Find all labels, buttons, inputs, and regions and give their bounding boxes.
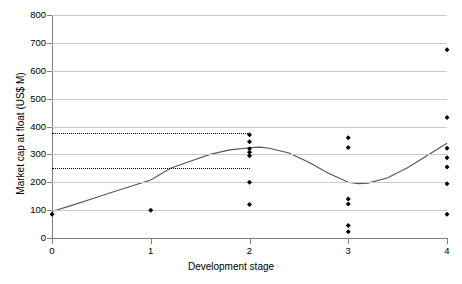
- y-axis-tick-label: 800: [12, 10, 46, 20]
- y-axis-tick-labels: 0100200300400500600700800: [10, 15, 46, 238]
- x-axis-tick-labels: 01234: [52, 246, 448, 258]
- y-axis-tick: [47, 154, 52, 155]
- y-axis-tick: [47, 99, 52, 100]
- x-axis-tick-label: 3: [333, 246, 363, 256]
- gridline: [52, 71, 447, 72]
- y-axis-tick: [47, 71, 52, 72]
- gridline: [52, 99, 447, 100]
- gridline: [52, 15, 447, 16]
- y-axis-tick-label: 600: [12, 66, 46, 76]
- lower-reference: [52, 168, 250, 169]
- y-axis-tick: [47, 43, 52, 44]
- y-axis-tick-label: 500: [12, 94, 46, 104]
- y-axis-tick-label: 700: [12, 38, 46, 48]
- y-axis-tick: [47, 15, 52, 16]
- upper-reference: [52, 133, 250, 134]
- y-axis-tick-label: 100: [12, 205, 46, 215]
- y-axis-tick-label: 0: [12, 233, 46, 243]
- gridline: [52, 43, 447, 44]
- x-axis-tick: [447, 239, 448, 244]
- y-axis-tick: [47, 127, 52, 128]
- scatter-chart: Market cap at float (US$ M) 010020030040…: [0, 0, 462, 284]
- x-axis-tick-label: 1: [136, 246, 166, 256]
- y-axis-tick: [47, 210, 52, 211]
- x-axis-tick-label: 4: [432, 246, 462, 256]
- y-axis-tick-label: 200: [12, 177, 46, 187]
- y-axis-tick: [47, 182, 52, 183]
- gridline: [52, 127, 447, 128]
- plot-area: [52, 15, 447, 238]
- x-axis-tick: [348, 239, 349, 244]
- x-axis-tick: [151, 239, 152, 244]
- x-axis-title: Development stage: [0, 261, 462, 272]
- x-axis-tick: [250, 239, 251, 244]
- y-axis-tick-label: 400: [12, 122, 46, 132]
- x-axis-tick-label: 2: [235, 246, 265, 256]
- x-axis-tick: [52, 239, 53, 244]
- x-axis-tick-label: 0: [37, 246, 67, 256]
- y-axis-tick-label: 300: [12, 149, 46, 159]
- gridline: [52, 210, 447, 211]
